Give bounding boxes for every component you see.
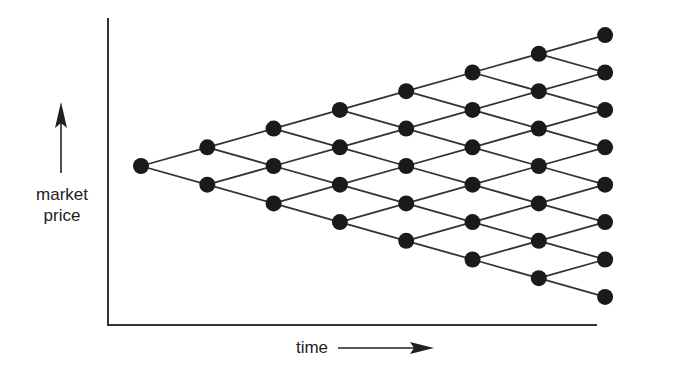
tree-edge xyxy=(340,110,406,129)
tree-node xyxy=(531,270,547,286)
tree-node xyxy=(597,289,613,305)
tree-edge xyxy=(340,147,406,166)
tree-edge xyxy=(473,129,539,148)
tree-edge xyxy=(274,166,340,185)
tree-edge xyxy=(473,73,539,92)
tree-node xyxy=(597,27,613,43)
tree-node xyxy=(199,177,215,193)
tree-edge xyxy=(406,185,472,204)
tree-edge xyxy=(406,203,472,222)
y-axis-label: market price xyxy=(14,184,110,226)
tree-edge xyxy=(539,35,605,54)
tree-edge xyxy=(340,185,406,204)
tree-node xyxy=(199,139,215,155)
tree-node xyxy=(465,252,481,268)
tree-node xyxy=(398,83,414,99)
tree-node xyxy=(531,46,547,62)
tree-edge xyxy=(406,110,472,129)
tree-node xyxy=(465,177,481,193)
tree-edge xyxy=(539,241,605,260)
tree-edge xyxy=(473,203,539,222)
tree-edge xyxy=(473,147,539,166)
tree-edge xyxy=(539,260,605,279)
tree-node xyxy=(597,65,613,81)
tree-node xyxy=(531,121,547,137)
tree-edge xyxy=(340,222,406,241)
tree-node xyxy=(332,102,348,118)
tree-edge xyxy=(207,147,273,166)
tree-edge xyxy=(473,185,539,204)
tree-node xyxy=(266,158,282,174)
tree-node xyxy=(531,83,547,99)
tree-edge xyxy=(340,166,406,185)
tree-edge xyxy=(406,147,472,166)
tree-node xyxy=(332,139,348,155)
tree-edge xyxy=(539,110,605,129)
tree-edge xyxy=(274,185,340,204)
tree-edge xyxy=(539,91,605,110)
tree-node xyxy=(531,233,547,249)
tree-node xyxy=(531,195,547,211)
tree-edge xyxy=(539,147,605,166)
tree-node xyxy=(398,121,414,137)
tree-edge xyxy=(274,129,340,148)
tree-node xyxy=(398,233,414,249)
tree-node xyxy=(597,252,613,268)
tree-edge xyxy=(340,203,406,222)
tree-edge xyxy=(406,91,472,110)
tree-node xyxy=(597,102,613,118)
tree-node xyxy=(597,139,613,155)
x-axis-arrow-icon xyxy=(338,342,434,354)
tree-node xyxy=(266,195,282,211)
tree-edge xyxy=(539,129,605,148)
tree-edge xyxy=(406,166,472,185)
tree-edge xyxy=(539,278,605,297)
tree-edge xyxy=(274,203,340,222)
tree-edge xyxy=(473,54,539,73)
tree-edge xyxy=(406,241,472,260)
tree-edge xyxy=(473,166,539,185)
tree-node xyxy=(465,65,481,81)
tree-edge xyxy=(406,222,472,241)
tree-edge xyxy=(539,54,605,73)
tree-node xyxy=(398,158,414,174)
tree-node xyxy=(332,177,348,193)
tree-edge xyxy=(539,185,605,204)
tree-edge xyxy=(141,166,207,185)
tree-edge xyxy=(207,185,273,204)
tree-edge xyxy=(274,147,340,166)
tree-edge xyxy=(473,91,539,110)
tree-edge xyxy=(141,147,207,166)
tree-edge xyxy=(473,260,539,279)
tree-edge xyxy=(473,241,539,260)
tree-edge xyxy=(340,129,406,148)
tree-node xyxy=(398,195,414,211)
tree-edge xyxy=(539,166,605,185)
tree-edge xyxy=(473,222,539,241)
tree-edge xyxy=(406,129,472,148)
tree-node xyxy=(597,177,613,193)
tree-edge xyxy=(340,91,406,110)
tree-edge xyxy=(207,166,273,185)
tree-edge xyxy=(539,73,605,92)
tree-node xyxy=(465,102,481,118)
tree-edge xyxy=(539,203,605,222)
tree-edge xyxy=(539,222,605,241)
tree-node xyxy=(465,139,481,155)
tree-edge xyxy=(473,110,539,129)
tree-node xyxy=(266,121,282,137)
tree-node xyxy=(465,214,481,230)
tree-edge xyxy=(207,129,273,148)
tree-node xyxy=(597,214,613,230)
tree-node xyxy=(332,214,348,230)
tree-nodes xyxy=(133,27,613,305)
y-axis-label-line1: market xyxy=(14,184,110,205)
tree-node xyxy=(133,158,149,174)
y-axis-label-line2: price xyxy=(14,205,110,226)
x-axis-label: time xyxy=(290,337,334,358)
tree-edge xyxy=(406,73,472,92)
y-axis-arrow-icon xyxy=(55,102,67,173)
tree-node xyxy=(531,158,547,174)
tree-edge xyxy=(274,110,340,129)
